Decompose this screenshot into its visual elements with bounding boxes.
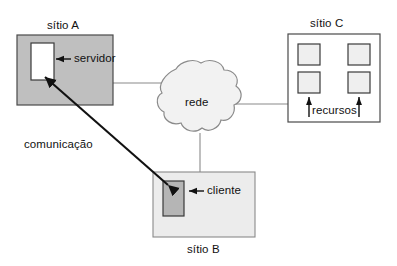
site-a-title: sítio A xyxy=(47,19,79,31)
network-architecture-diagram: sítio A sítio C sítio B servidor cliente… xyxy=(0,0,397,266)
recurso-box-3 xyxy=(298,72,320,93)
site-c-title: sítio C xyxy=(310,17,343,29)
site-b-title: sítio B xyxy=(187,243,220,255)
servidor-label: servidor xyxy=(74,52,116,64)
recurso-box-4 xyxy=(348,72,370,93)
recurso-box-2 xyxy=(348,44,370,65)
cliente-box xyxy=(163,181,184,216)
servidor-box xyxy=(31,43,54,80)
diagram-vector-layer xyxy=(0,0,397,266)
comunicacao-label: comunicação xyxy=(24,138,93,150)
recurso-box-1 xyxy=(298,44,320,65)
cliente-label: cliente xyxy=(207,184,241,196)
recursos-label: recursos xyxy=(312,104,357,116)
rede-label: rede xyxy=(185,96,208,108)
